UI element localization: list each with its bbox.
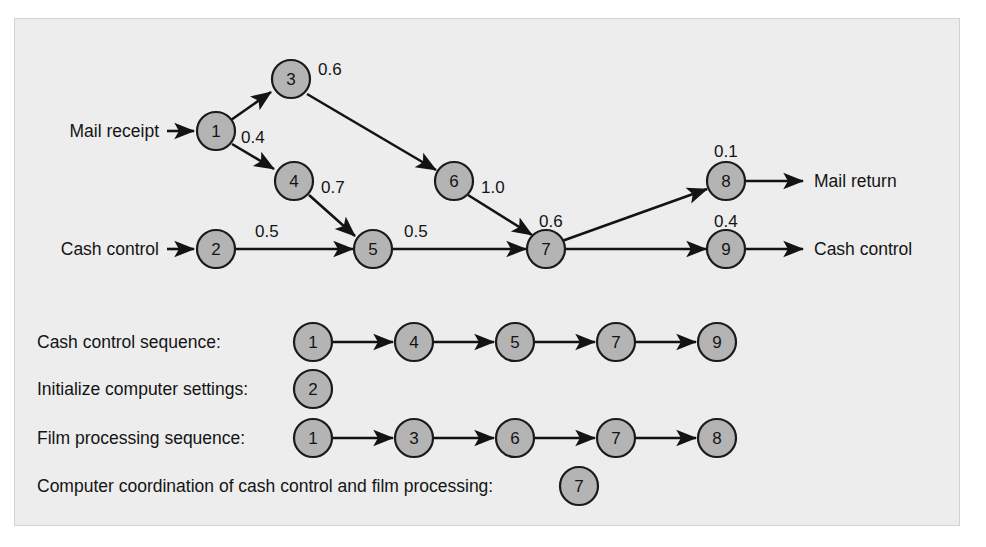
network-node-3[interactable]: 3 — [272, 60, 310, 98]
edge-1-to-4 — [232, 144, 274, 169]
sequence-node[interactable]: 7 — [560, 467, 598, 505]
weight-label-node-8: 0.1 — [714, 142, 738, 161]
network-node-7[interactable]: 7 — [527, 230, 565, 268]
node-label: 4 — [409, 333, 418, 352]
node-label: 8 — [712, 429, 721, 448]
network-node-2[interactable]: 2 — [197, 230, 235, 268]
input-cash-control: Cash control — [61, 239, 194, 259]
diagram-panel: Mail receipt Cash control Mail return — [14, 18, 960, 526]
weight-label-node-7: 0.6 — [539, 212, 563, 231]
network-node-9[interactable]: 9 — [707, 230, 745, 268]
sequence-label: Film processing sequence: — [37, 428, 245, 448]
node-label: 3 — [409, 429, 418, 448]
sequence-node[interactable]: 1 — [294, 323, 332, 361]
network-node-8[interactable]: 8 — [707, 162, 745, 200]
node-label: 9 — [721, 240, 730, 259]
network-node-4[interactable]: 4 — [275, 162, 313, 200]
network-node-6[interactable]: 6 — [435, 162, 473, 200]
node-label: 6 — [510, 429, 519, 448]
node-label: 8 — [721, 172, 730, 191]
edge-7-to-8 — [562, 189, 707, 241]
node-label: 7 — [574, 477, 583, 496]
sequence-node[interactable]: 2 — [294, 370, 332, 408]
weight-label-node-1: 0.4 — [241, 128, 265, 147]
network-node-5[interactable]: 5 — [354, 230, 392, 268]
edge-6-to-7 — [468, 195, 532, 235]
output-label-cash-control: Cash control — [814, 239, 912, 259]
sequence-node[interactable]: 5 — [496, 323, 534, 361]
edge-3-to-6 — [307, 94, 436, 170]
weight-label-node-6: 1.0 — [481, 178, 505, 197]
node-label: 5 — [510, 333, 519, 352]
sequence-row-film-processing-sequence: Film processing sequence: 1 3 6 — [37, 419, 736, 457]
node-label: 9 — [712, 333, 721, 352]
sequence-label: Cash control sequence: — [37, 332, 221, 352]
sequence-node[interactable]: 6 — [496, 419, 534, 457]
node-label: 3 — [286, 70, 295, 89]
sequence-node[interactable]: 7 — [597, 323, 635, 361]
weight-label-node-4: 0.7 — [321, 178, 345, 197]
node-label: 4 — [289, 172, 298, 191]
node-label: 7 — [611, 333, 620, 352]
sequence-node[interactable]: 1 — [294, 419, 332, 457]
sequence-label: Initialize computer settings: — [37, 379, 248, 399]
input-mail-receipt: Mail receipt — [70, 121, 194, 141]
sequence-row-computer-coordination: Computer coordination of cash control an… — [37, 467, 598, 505]
node-label: 7 — [541, 240, 550, 259]
node-label: 2 — [308, 380, 317, 399]
figure-root: Mail receipt Cash control Mail return — [0, 0, 986, 547]
sequence-row-cash-control-sequence: Cash control sequence: 1 4 5 — [37, 323, 736, 361]
node-label: 1 — [308, 429, 317, 448]
weight-label-node-9: 0.4 — [714, 212, 738, 231]
node-label: 7 — [611, 429, 620, 448]
sequence-node[interactable]: 4 — [395, 323, 433, 361]
weight-label-node-3: 0.6 — [318, 60, 342, 79]
output-cash-control: Cash control — [746, 239, 912, 259]
edge-4-to-5 — [309, 195, 355, 236]
node-label: 6 — [449, 172, 458, 191]
sequence-node[interactable]: 8 — [698, 419, 736, 457]
sequence-label: Computer coordination of cash control an… — [37, 476, 493, 496]
network-diagram: Mail receipt Cash control Mail return — [15, 19, 960, 526]
edge-1-to-3 — [231, 92, 271, 120]
node-label: 1 — [211, 122, 220, 141]
weight-label-node-2: 0.5 — [255, 222, 279, 241]
input-label-mail-receipt: Mail receipt — [70, 121, 160, 141]
output-label-mail-return: Mail return — [814, 171, 897, 191]
input-label-cash-control: Cash control — [61, 239, 159, 259]
output-mail-return: Mail return — [746, 171, 897, 191]
sequence-row-initialize-computer-settings: Initialize computer settings: 2 — [37, 370, 332, 408]
node-label: 2 — [211, 240, 220, 259]
node-label: 5 — [368, 240, 377, 259]
sequence-node[interactable]: 7 — [597, 419, 635, 457]
network-node-1[interactable]: 1 — [197, 112, 235, 150]
node-label: 1 — [308, 333, 317, 352]
weight-label-node-5: 0.5 — [404, 222, 428, 241]
sequence-node[interactable]: 3 — [395, 419, 433, 457]
sequence-node[interactable]: 9 — [698, 323, 736, 361]
